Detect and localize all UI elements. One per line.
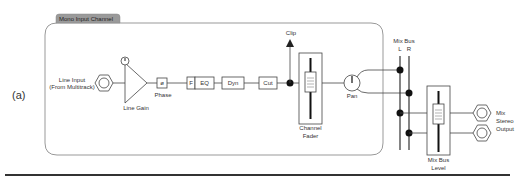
- mix-output-right-jack-icon: [473, 125, 491, 141]
- signal-flow-diagram: (a) Mono Input Channel Line Input (From …: [0, 0, 527, 185]
- section-title: Mono Input Channel: [59, 16, 113, 22]
- channel-fader[interactable]: [299, 53, 322, 124]
- bus-junction-dot: [406, 90, 413, 97]
- eq-label: EQ: [200, 80, 209, 86]
- channel-fader-label: Channel: [299, 125, 321, 131]
- channel-fader-cap[interactable]: [305, 72, 316, 92]
- phase-symbol: ø: [160, 80, 164, 86]
- mix-bus-left-label: L: [398, 46, 402, 52]
- line-gain-amp-icon: [125, 63, 147, 103]
- dynamics-label: Dyn: [228, 80, 239, 86]
- mix-output-label: Mix: [496, 110, 505, 116]
- mix-output-left-jack-icon: [473, 105, 491, 121]
- filter-label: F: [189, 80, 193, 86]
- line-input-jack-icon: [95, 75, 113, 91]
- mix-bus-fader[interactable]: [427, 86, 450, 155]
- mix-bus-fader-cap[interactable]: [433, 104, 444, 124]
- phase-label: Phase: [154, 92, 172, 98]
- line-gain-label: Line Gain: [123, 105, 149, 111]
- mix-output-sublabel-1: Stereo: [496, 118, 514, 124]
- bus-junction-dot: [397, 67, 404, 74]
- clip-indicator-icon: [286, 39, 294, 47]
- channel-fader-sublabel: Fader: [303, 133, 319, 139]
- cut-label: Cut: [263, 80, 273, 86]
- gain-knob-icon[interactable]: [121, 57, 129, 65]
- mix-bus-level-sublabel: Level: [431, 165, 445, 171]
- mix-bus-right-label: R: [407, 46, 412, 52]
- line-input-sublabel: (From Multitrack): [49, 84, 94, 90]
- mix-output-sublabel-2: Output: [496, 126, 514, 132]
- mix-bus-level-label: Mix Bus: [428, 157, 449, 163]
- pan-knob-icon[interactable]: [344, 75, 360, 91]
- line-input-label: Line Input: [59, 77, 86, 83]
- clip-label: Clip: [286, 30, 297, 36]
- mix-bus-label: Mix Bus: [393, 38, 414, 44]
- figure-label: (a): [12, 89, 25, 101]
- pan-label: Pan: [347, 93, 358, 99]
